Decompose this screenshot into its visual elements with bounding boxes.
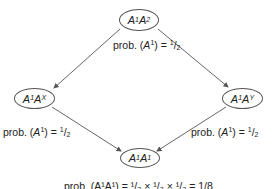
node-text: A — [129, 152, 136, 164]
node-a1a1: A1A1 — [120, 148, 160, 168]
frac-den: 2 — [255, 131, 259, 138]
frac-den: 2 — [177, 44, 181, 51]
node-text: A — [242, 93, 249, 105]
label-text: prob. ( — [113, 39, 143, 51]
edge-top-left — [54, 29, 120, 88]
node-sup: X — [41, 94, 46, 101]
node-text: A — [140, 152, 147, 164]
node-sup: 1 — [136, 154, 140, 161]
node-sup: 2 — [146, 16, 150, 23]
node-text: A — [128, 14, 135, 26]
node-text: A — [231, 93, 238, 105]
prob-label-bottom: prob. (A¹A¹) = ¹/₂ × ¹/₂ × ¹/₂ = 1/8 — [64, 180, 213, 189]
node-sup: 1 — [147, 154, 151, 161]
node-a1a2: A1A2 — [119, 9, 159, 31]
label-text: ) = — [44, 126, 59, 138]
edge-top-right — [158, 29, 228, 87]
label-text: ) = — [154, 39, 169, 51]
prob-label-left: prob. (A1) = 1/2 — [3, 126, 70, 138]
frac-den: 2 — [67, 131, 71, 138]
node-sup: 1 — [135, 16, 139, 23]
label-text: prob. ( — [3, 126, 33, 138]
prob-label-top: prob. (A1) = 1/2 — [113, 39, 180, 51]
node-sup: Y — [249, 94, 254, 101]
node-a1ay: A1AY — [222, 88, 263, 109]
node-text: A — [23, 93, 30, 105]
label-text: prob. ( — [191, 126, 221, 138]
node-sup: 1 — [30, 94, 34, 101]
node-sup: 1 — [238, 94, 242, 101]
label-text: ) = — [232, 126, 247, 138]
prob-label-right: prob. (A1) = 1/2 — [191, 126, 258, 138]
node-a1ax: A1AX — [14, 88, 55, 109]
